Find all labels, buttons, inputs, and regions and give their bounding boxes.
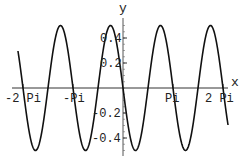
y-tick-label-neg0.4: -0.4 bbox=[92, 132, 121, 146]
x-tick-label-neg2pi: -2 Pi bbox=[5, 92, 41, 106]
x-tick-label-negpi: -Pi bbox=[63, 92, 85, 106]
x-tick-label-2pi: 2 Pi bbox=[205, 92, 234, 106]
y-axis-label: y bbox=[119, 1, 127, 16]
y-tick-label-0.4: 0.4 bbox=[100, 32, 122, 46]
y-tick-label-neg0.2: -0.2 bbox=[92, 107, 121, 121]
y-tick-label-0.2: 0.2 bbox=[100, 57, 122, 71]
x-axis-label: x bbox=[231, 75, 239, 90]
x-tick-label-pi: Pi bbox=[165, 92, 179, 106]
plot-canvas: y x -2 Pi -Pi Pi 2 Pi 0.4 0.2 -0.2 -0.4 bbox=[0, 0, 246, 160]
